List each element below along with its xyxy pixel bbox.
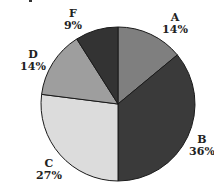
label-b: B 36%: [187, 134, 214, 158]
label-c: C 27%: [34, 158, 64, 182]
label-d-pct: 14%: [18, 61, 48, 73]
label-d: D 14%: [18, 49, 48, 73]
label-b-pct: 36%: [187, 146, 214, 158]
label-f: F 9%: [58, 8, 88, 32]
label-a: A 14%: [160, 12, 190, 36]
label-f-pct: 9%: [58, 20, 88, 32]
label-c-pct: 27%: [34, 170, 64, 182]
label-a-pct: 14%: [160, 24, 190, 36]
